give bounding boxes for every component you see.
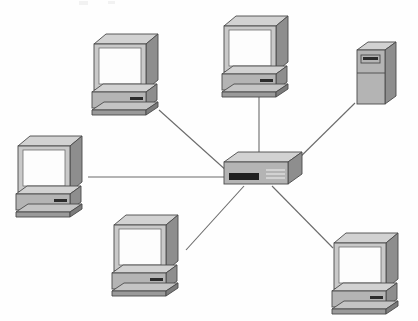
node-bottom-left[interactable] [112, 215, 178, 296]
node-bottom-right[interactable] [332, 233, 398, 314]
link-line-bottom-right [272, 186, 333, 248]
scan-artifacts [79, 1, 115, 5]
link-line-bottom-left [186, 186, 244, 250]
diagram-svg [0, 0, 418, 321]
central-hub[interactable] [224, 152, 302, 184]
hub-port-bank [229, 173, 259, 180]
network-diagram-canvas: Six end devices connected by individual … [0, 0, 418, 321]
link-line-top-left [159, 110, 228, 172]
node-top-left[interactable] [92, 34, 158, 115]
node-left-middle[interactable] [16, 136, 82, 217]
node-top-center[interactable] [222, 16, 288, 97]
node-right-tower[interactable] [357, 42, 396, 104]
